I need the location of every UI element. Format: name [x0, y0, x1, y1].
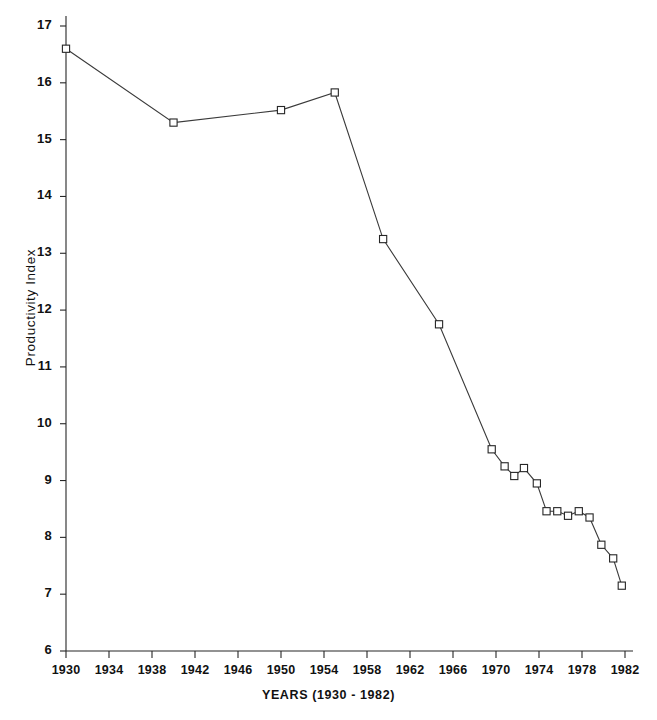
data-point-marker	[170, 119, 177, 126]
axes-layer	[60, 16, 633, 658]
data-point-marker	[331, 89, 338, 96]
data-point-marker	[511, 472, 518, 479]
data-point-marker	[501, 463, 508, 470]
data-series-layer	[62, 45, 625, 589]
data-point-marker	[586, 514, 593, 521]
data-point-marker	[488, 446, 495, 453]
plot-area	[0, 0, 657, 720]
data-point-marker	[618, 582, 625, 589]
data-point-marker	[610, 555, 617, 562]
data-point-marker	[554, 508, 561, 515]
data-point-marker	[520, 464, 527, 471]
data-point-marker	[380, 235, 387, 242]
data-point-marker	[435, 321, 442, 328]
productivity-index-chart: Productivity Index YEARS (1930 - 1982) 6…	[0, 0, 657, 720]
data-point-marker	[277, 106, 284, 113]
series-line	[66, 49, 622, 586]
data-point-marker	[62, 45, 69, 52]
data-point-marker	[543, 508, 550, 515]
data-point-marker	[575, 508, 582, 515]
data-point-marker	[598, 541, 605, 548]
data-point-marker	[564, 512, 571, 519]
data-point-marker	[533, 480, 540, 487]
